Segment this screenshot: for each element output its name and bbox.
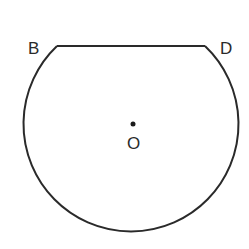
label-o: O [127, 134, 140, 153]
label-b: B [28, 39, 39, 58]
circle-diagram: B D O [0, 0, 249, 249]
label-d: D [220, 39, 232, 58]
center-point [131, 122, 136, 127]
